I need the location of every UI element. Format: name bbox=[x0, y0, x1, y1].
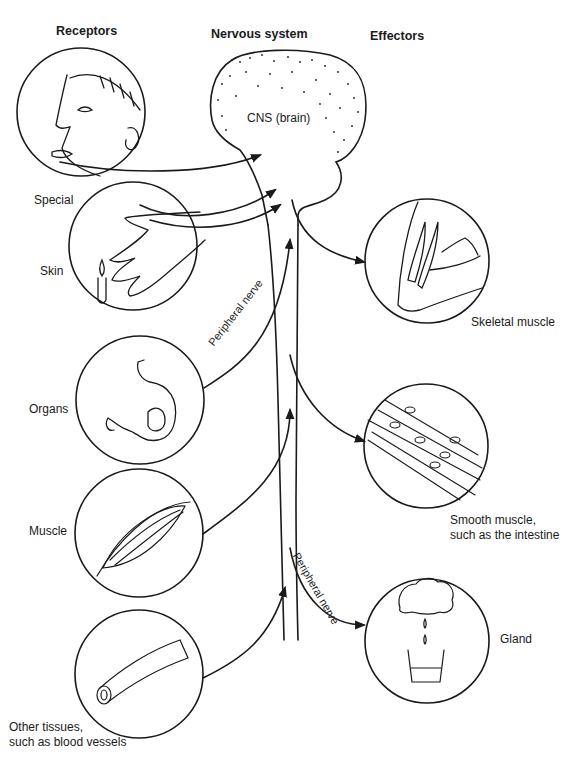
arm-biceps-icon bbox=[398, 202, 482, 311]
receptor-label-other-tissues: Other tissues, such as blood vessels bbox=[9, 720, 126, 750]
header-nervous-system: Nervous system bbox=[211, 27, 308, 41]
receptor-circle-special bbox=[17, 48, 145, 176]
header-receptors: Receptors bbox=[56, 24, 117, 38]
hand-candle-icon bbox=[98, 212, 205, 303]
effector-label-smooth-line2: such as the intestine bbox=[450, 528, 559, 543]
effector-label-gland: Gland bbox=[500, 632, 532, 647]
effector-circle-smooth bbox=[364, 384, 488, 508]
receptor-circle-other bbox=[75, 610, 203, 738]
receptor-circle-skin bbox=[69, 182, 197, 310]
effector-label-smooth-line1: Smooth muscle, bbox=[450, 513, 559, 528]
header-effectors: Effectors bbox=[370, 29, 424, 43]
receptor-label-muscle: Muscle bbox=[29, 524, 67, 539]
effector-label-smooth: Smooth muscle, such as the intestine bbox=[450, 513, 559, 543]
blood-vessel-icon bbox=[97, 640, 188, 704]
muscle-spindle-icon bbox=[97, 502, 190, 576]
receptor-circle-muscle bbox=[75, 469, 203, 597]
receptor-label-organs: Organs bbox=[29, 402, 68, 417]
smooth-muscle-cells-icon bbox=[368, 400, 482, 500]
effector-circle-gland bbox=[365, 579, 489, 703]
receptor-label-special: Special bbox=[34, 193, 73, 208]
receptor-label-other-line2: such as blood vessels bbox=[9, 735, 126, 750]
receptor-label-skin: Skin bbox=[40, 264, 63, 279]
gland-secretion-icon bbox=[399, 578, 453, 682]
brain-label: CNS (brain) bbox=[247, 111, 310, 126]
face-tongue-ear-icon bbox=[52, 75, 140, 176]
brain-icon bbox=[211, 50, 366, 225]
stomach-icon bbox=[106, 360, 175, 440]
receptor-label-other-line1: Other tissues, bbox=[9, 720, 126, 735]
effector-label-skeletal: Skeletal muscle bbox=[471, 315, 555, 330]
receptor-circle-organs bbox=[76, 336, 204, 464]
